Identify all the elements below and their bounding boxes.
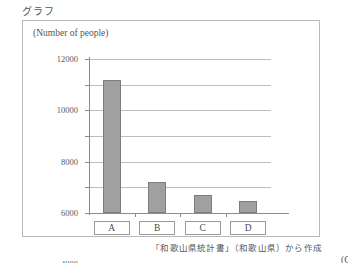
gridline xyxy=(89,59,271,60)
x-axis-title: (Countries) xyxy=(341,255,348,263)
bar-b xyxy=(148,182,166,213)
y-tick-mark: 4000 xyxy=(85,162,90,163)
y-tick-mark: 0 xyxy=(85,213,90,214)
y-tick-mark: 6000 xyxy=(85,136,90,137)
category-label-b: B xyxy=(139,221,175,235)
y-axis-title: (Number of people) xyxy=(33,28,108,38)
y-tick-mark: 2000 xyxy=(85,187,90,188)
category-label-c: C xyxy=(185,221,221,235)
y-tick-mark: 10000 xyxy=(85,85,90,86)
x-tick-mark xyxy=(226,213,227,217)
y-tick-mark: 12000 xyxy=(85,59,90,60)
y-tick-label: 8000 xyxy=(61,157,78,167)
x-tick-mark xyxy=(135,213,136,217)
y-tick-label: 6000 xyxy=(61,208,78,218)
chart-title: グラフ xyxy=(22,3,55,18)
category-label-d: D xyxy=(230,221,266,235)
y-tick-label: 10000 xyxy=(57,105,78,115)
figure-frame: (Number of people) 020004000600080001000… xyxy=(22,20,320,237)
source-note: 「和歌山県統計書」（和歌山県）から作成 xyxy=(151,241,322,253)
plot-area: 020004000600080001000012000 ABCD (Countr… xyxy=(89,59,271,213)
y-tick-mark: 8000 xyxy=(85,110,90,111)
y-tick-label: 12000 xyxy=(57,54,78,64)
bar-a xyxy=(103,80,121,213)
bar-d xyxy=(239,201,257,213)
x-tick-mark xyxy=(180,213,181,217)
category-label-a: A xyxy=(94,221,130,235)
y-tick-label: 4000 xyxy=(61,259,78,263)
bar-c xyxy=(194,195,212,213)
